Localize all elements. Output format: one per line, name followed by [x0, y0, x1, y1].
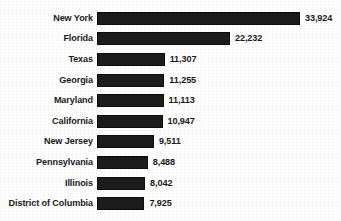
value-label: 11,255: [169, 76, 196, 85]
bar: [97, 197, 144, 210]
bar-row: New York33,924: [0, 8, 341, 29]
category-label: Pennsylvania: [0, 158, 93, 167]
bar-track: 11,307: [93, 49, 341, 70]
category-label: New Jersey: [0, 137, 93, 146]
bar-track: 11,113: [93, 90, 341, 111]
bar-row: Maryland11,113: [0, 90, 341, 111]
bar-track: 7,925: [93, 193, 341, 214]
bar-row: Pennsylvania8,488: [0, 152, 341, 173]
bar-track: 10,947: [93, 111, 341, 132]
bar-track: 8,042: [93, 173, 341, 194]
bar: [97, 115, 163, 128]
bar: [97, 74, 164, 87]
category-label: California: [0, 117, 93, 126]
value-label: 11,113: [169, 96, 195, 105]
value-label: 33,924: [305, 14, 332, 23]
category-label: Illinois: [0, 179, 93, 188]
category-label: Texas: [0, 55, 93, 64]
category-label: Florida: [0, 34, 93, 43]
bar-track: 8,488: [93, 152, 341, 173]
value-label: 9,511: [159, 137, 181, 146]
horizontal-bar-chart: New York33,924Florida22,232Texas11,307Ge…: [0, 0, 341, 221]
value-label: 8,488: [153, 158, 175, 167]
bar: [97, 177, 145, 190]
bar: [97, 94, 164, 107]
bar-track: 9,511: [93, 132, 341, 153]
category-label: Georgia: [0, 76, 93, 85]
bar-row: New Jersey9,511: [0, 132, 341, 153]
bar-row: Georgia11,255: [0, 70, 341, 91]
value-label: 11,307: [170, 55, 197, 64]
category-label: District of Columbia: [0, 199, 93, 208]
value-label: 8,042: [150, 179, 172, 188]
bar-row: California10,947: [0, 111, 341, 132]
bar: [97, 135, 154, 148]
value-label: 10,947: [168, 117, 195, 126]
bar: [97, 156, 148, 169]
chart-plot-area: New York33,924Florida22,232Texas11,307Ge…: [0, 8, 341, 214]
category-label: Maryland: [0, 96, 93, 105]
bar: [97, 12, 300, 25]
category-label: New York: [0, 14, 93, 23]
bar-row: District of Columbia7,925: [0, 193, 341, 214]
bar: [97, 32, 230, 45]
bar-track: 33,924: [93, 8, 341, 29]
bar-track: 11,255: [93, 70, 341, 91]
bar-track: 22,232: [93, 29, 341, 50]
value-label: 7,925: [149, 199, 171, 208]
bar: [97, 53, 165, 66]
value-label: 22,232: [235, 34, 262, 43]
bar-row: Illinois8,042: [0, 173, 341, 194]
bar-row: Florida22,232: [0, 29, 341, 50]
bar-row: Texas11,307: [0, 49, 341, 70]
